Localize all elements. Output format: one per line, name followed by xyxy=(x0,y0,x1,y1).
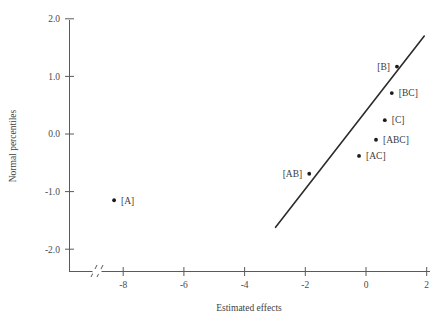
x-axis-ticks: -8-6-4-202 xyxy=(119,267,429,290)
normal-probability-plot: 2.01.00.0-1.0-2.0 -8-6-4-202 [A][AB][AC]… xyxy=(0,0,441,326)
data-point-label: [AB] xyxy=(283,169,303,179)
data-point xyxy=(383,118,387,122)
y-tick-label: 0.0 xyxy=(48,129,60,139)
x-axis-break-icon xyxy=(91,265,103,277)
data-point-label: [BC] xyxy=(399,88,418,98)
data-point-label: [AC] xyxy=(366,151,386,161)
data-point-label: [C] xyxy=(392,115,405,125)
x-tick-label: -6 xyxy=(180,280,188,290)
data-point xyxy=(374,138,378,142)
data-point-label: [A] xyxy=(121,196,134,206)
x-tick-label: -2 xyxy=(301,280,309,290)
y-axis-title: Normal percentiles xyxy=(8,109,18,182)
x-tick-label: 0 xyxy=(364,280,369,290)
axes xyxy=(70,20,431,272)
data-point xyxy=(390,91,394,95)
x-axis-title: Estimated effects xyxy=(216,303,282,313)
x-tick-label: 2 xyxy=(424,280,429,290)
y-tick-label: 2.0 xyxy=(48,14,60,24)
data-points: [A][AB][AC][ABC][C][BC][B] xyxy=(112,62,418,206)
x-tick-label: -4 xyxy=(241,280,249,290)
y-tick-label: -2.0 xyxy=(45,245,60,255)
data-point xyxy=(395,65,399,69)
normal-reference-line xyxy=(276,36,425,227)
data-point-label: [ABC] xyxy=(383,135,409,145)
data-point-label: [B] xyxy=(377,62,390,72)
data-point xyxy=(357,154,361,158)
data-point xyxy=(307,172,311,176)
data-point xyxy=(112,198,116,202)
y-tick-label: -1.0 xyxy=(45,187,60,197)
plot-canvas: 2.01.00.0-1.0-2.0 -8-6-4-202 [A][AB][AC]… xyxy=(0,0,441,326)
x-tick-label: -8 xyxy=(119,280,127,290)
reference-line xyxy=(276,36,425,227)
y-tick-label: 1.0 xyxy=(48,72,60,82)
